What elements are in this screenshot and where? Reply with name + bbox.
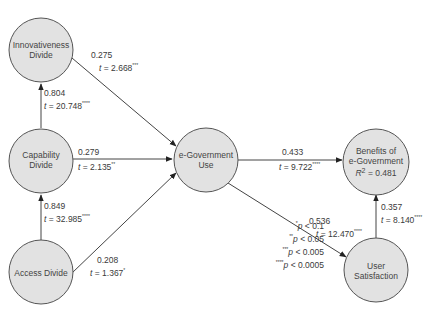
t-statistic: t = 9.722**** [279, 159, 320, 172]
legend-row: ****p < 0.0005 [254, 257, 324, 270]
innovativeness-divide-label: Innovativeness Divide [13, 40, 70, 60]
label-line: Satisfaction [354, 271, 398, 281]
legend-threshold: < 0.05 [298, 234, 324, 244]
label-line: Innovativeness [13, 40, 70, 50]
legend-threshold: < 0.1 [302, 221, 324, 231]
path-coefficient: 0.804 [44, 88, 90, 98]
path-coefficient: 0.208 [90, 255, 125, 265]
legend-stars: **** [276, 259, 284, 265]
label-line: Divide [13, 50, 70, 60]
t-statistic: t = 20.748**** [44, 98, 90, 111]
access-divide-label: Access Divide [14, 268, 67, 278]
t-value: = 9.722 [281, 162, 312, 172]
significance-stars: **** [82, 100, 90, 106]
significance-stars: **** [354, 228, 362, 234]
capability-divide-label: Capability Divide [22, 150, 59, 170]
label-line: e-Government [349, 156, 403, 166]
legend-threshold: < 0.0005 [288, 260, 324, 270]
significance-stars: **** [312, 161, 320, 167]
significance-stars: *** [132, 62, 138, 68]
significance-stars: ** [111, 161, 115, 167]
r2-value: = 0.481 [366, 168, 397, 178]
benefits-egovernment-label: Benefits of e-Government R2 = 0.481 [349, 146, 403, 179]
r-squared: R2 = 0.481 [349, 166, 403, 179]
egovernment-use-label: e-Government Use [179, 150, 233, 170]
path-coefficient: 0.433 [279, 147, 320, 157]
edge-label-capability-to-use: 0.279 t = 2.135** [78, 147, 115, 172]
edge-label-access-to-capability: 0.849 t = 32.985**** [44, 201, 90, 224]
path-coefficient: 0.849 [44, 201, 90, 211]
t-value: = 8.140 [383, 215, 414, 225]
t-statistic: t = 8.140**** [381, 212, 422, 225]
significance-stars: * [123, 267, 125, 273]
t-value: = 32.985 [46, 214, 82, 224]
label-line: Capability [22, 150, 59, 160]
legend-row: ***p < 0.005 [254, 244, 324, 257]
user-satisfaction-label: User Satisfaction [354, 261, 398, 281]
edge-label-satisfaction-to-benefits: 0.357 t = 8.140**** [381, 202, 422, 225]
t-value: = 20.748 [46, 101, 82, 111]
label-line: Divide [22, 160, 59, 170]
legend-threshold: < 0.005 [293, 247, 324, 257]
t-statistic: t = 32.985**** [44, 211, 90, 224]
label-line: Access Divide [14, 268, 67, 278]
edge-label-capability-to-innovativeness: 0.804 t = 20.748**** [44, 88, 90, 111]
label-line: Benefits of [349, 146, 403, 156]
significance-legend: *p < 0.1 **p < 0.05 ***p < 0.005 ****p <… [254, 218, 324, 270]
label-line: User [354, 261, 398, 271]
legend-row: *p < 0.1 [254, 218, 324, 231]
path-coefficient: 0.357 [381, 202, 422, 212]
path-coefficient: 0.279 [78, 147, 115, 157]
t-statistic: t = 1.367* [90, 265, 125, 278]
legend-row: **p < 0.05 [254, 231, 324, 244]
path-coefficient: 0.275 [91, 50, 138, 60]
t-value: = 1.367 [92, 268, 123, 278]
t-value: = 2.135 [80, 162, 111, 172]
label-line: Use [179, 160, 233, 170]
significance-stars: **** [82, 213, 90, 219]
edge-label-innovativeness-to-use: 0.275 t = 2.668*** [91, 50, 138, 73]
edge-label-use-to-benefits: 0.433 t = 9.722**** [279, 147, 320, 172]
t-statistic: t = 2.135** [78, 159, 115, 172]
t-value: = 2.668 [101, 63, 132, 73]
t-statistic: t = 2.668*** [91, 60, 138, 73]
label-line: e-Government [179, 150, 233, 160]
significance-stars: **** [414, 214, 422, 220]
edge-label-access-to-use: 0.208 t = 1.367* [90, 255, 125, 278]
